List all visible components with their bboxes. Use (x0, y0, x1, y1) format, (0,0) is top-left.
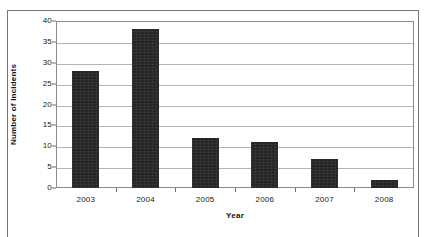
y-axis-tick-mark (52, 62, 56, 63)
bar (72, 71, 99, 188)
x-axis-tick-label: 2003 (77, 195, 96, 205)
y-axis-title: Number of Incidents (7, 21, 21, 188)
x-axis-tick-label: 2007 (315, 195, 334, 205)
y-axis-tick-label: 30 (43, 59, 52, 67)
bar-chart: Number of Incidents 0510152025303540 200… (0, 0, 426, 237)
x-axis-tick-marks (56, 188, 414, 193)
y-axis-tick-mark (52, 21, 56, 22)
x-axis-tick-label: 2008 (375, 195, 394, 205)
y-axis-tick-label: 35 (43, 38, 52, 46)
y-axis-tick-mark (52, 83, 56, 84)
y-axis-tick-mark (52, 125, 56, 126)
x-axis-tick-labels: 200320042005200620072008 (56, 195, 414, 207)
y-axis-tick-label: 20 (43, 101, 52, 109)
x-axis-tick-mark (235, 188, 236, 192)
y-axis-tick-mark (52, 41, 56, 42)
x-axis-tick-mark (116, 188, 117, 192)
y-axis-tick-mark (52, 146, 56, 147)
x-axis-tick-mark (354, 188, 355, 192)
bar (132, 29, 159, 188)
bar (192, 138, 219, 188)
y-axis-tick-mark (52, 167, 56, 168)
x-axis-tick-mark (175, 188, 176, 192)
y-axis-title-label: Number of Incidents (10, 64, 19, 145)
x-axis-tick-label: 2006 (256, 195, 275, 205)
x-axis-title: Year (56, 211, 414, 220)
y-axis-tick-labels: 0510152025303540 (24, 21, 52, 188)
x-axis-tick-label: 2005 (196, 195, 215, 205)
bar (371, 180, 398, 188)
bar (311, 159, 338, 188)
y-axis-tick-mark (52, 188, 56, 189)
x-axis-tick-label: 2004 (136, 195, 155, 205)
x-axis-tick-mark (295, 188, 296, 192)
y-axis-tick-mark (52, 104, 56, 105)
y-axis-tick-label: 10 (43, 142, 52, 150)
y-axis-tick-label: 25 (43, 80, 52, 88)
bar (251, 142, 278, 188)
bars-layer (56, 21, 414, 188)
figure-root: Number of Incidents 0510152025303540 200… (0, 0, 426, 237)
y-axis-tick-label: 15 (43, 121, 52, 129)
y-axis-tick-label: 40 (43, 17, 52, 25)
